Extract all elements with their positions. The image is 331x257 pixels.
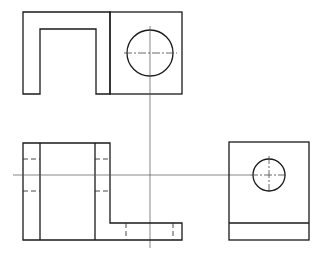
orthographic-drawing bbox=[0, 0, 331, 257]
front-view bbox=[23, 143, 182, 240]
side-view bbox=[229, 142, 309, 240]
top-view bbox=[23, 12, 182, 94]
front-view-outline bbox=[23, 143, 182, 240]
top-view-u-outline bbox=[23, 12, 110, 94]
